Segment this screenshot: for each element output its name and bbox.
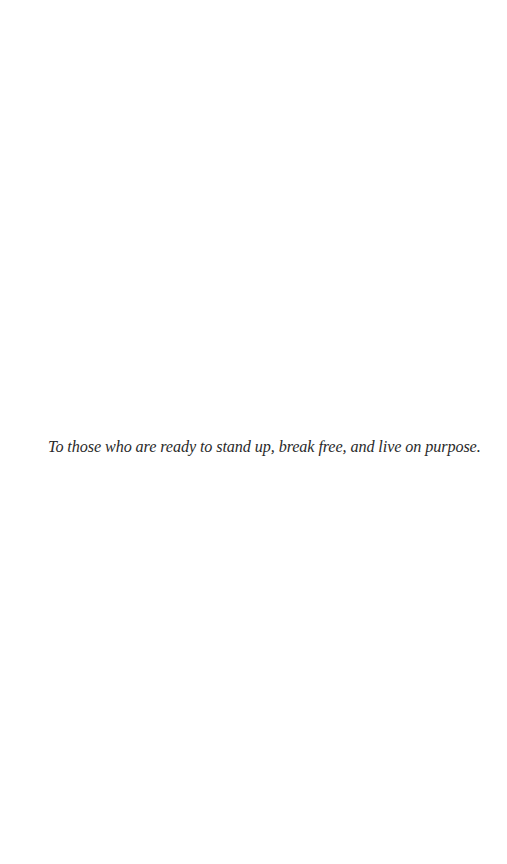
dedication-text: To those who are ready to stand up, brea… bbox=[48, 435, 468, 459]
book-page: To those who are ready to stand up, brea… bbox=[0, 0, 507, 864]
